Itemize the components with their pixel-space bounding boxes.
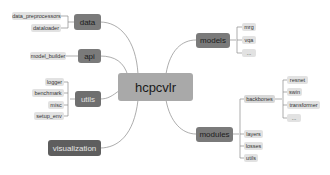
leaf-layers[interactable]: layers	[244, 130, 263, 138]
leaf-misc[interactable]: misc	[48, 101, 64, 109]
branch-modules[interactable]: modules	[196, 127, 233, 142]
branch-data-label: data	[80, 18, 96, 27]
branch-models[interactable]: models	[196, 33, 230, 48]
leaf-model-builder[interactable]: model_builder	[30, 52, 66, 60]
branch-utils-label: utils	[81, 95, 95, 104]
root-label: hcpcvlr	[135, 80, 176, 95]
branch-visualization-label: visualization	[53, 144, 97, 153]
leaf-resnet[interactable]: resnet	[287, 76, 308, 84]
leaf-mrg[interactable]: mrg	[242, 23, 256, 31]
branch-models-label: models	[200, 36, 226, 45]
branch-api[interactable]: api	[78, 49, 101, 63]
branch-modules-label: modules	[199, 130, 229, 139]
leaf-setup-env[interactable]: setup_env	[34, 112, 64, 120]
leaf-models-more[interactable]: ...	[242, 49, 256, 57]
leaf-dataloader[interactable]: dataloader	[31, 24, 61, 32]
sub-backbones[interactable]: backbones	[244, 95, 275, 103]
leaf-swin[interactable]: swin	[287, 88, 302, 96]
leaf-losses[interactable]: losses	[244, 142, 263, 150]
leaf-benchmark[interactable]: benchmark	[32, 89, 64, 97]
leaf-transformer[interactable]: transformer	[287, 101, 320, 109]
branch-visualization[interactable]: visualization	[48, 140, 101, 156]
leaf-data-preprocessors[interactable]: data_preprocessors	[12, 12, 61, 20]
root-node[interactable]: hcpcvlr	[118, 73, 193, 101]
leaf-vqa[interactable]: vqa	[242, 36, 256, 44]
branch-data[interactable]: data	[74, 14, 101, 30]
leaf-logger[interactable]: logger	[45, 78, 64, 86]
branch-api-label: api	[84, 52, 95, 61]
leaf-backbones-more[interactable]: ...	[287, 114, 301, 122]
branch-utils[interactable]: utils	[75, 91, 101, 107]
leaf-modules-utils[interactable]: utils	[244, 154, 258, 162]
